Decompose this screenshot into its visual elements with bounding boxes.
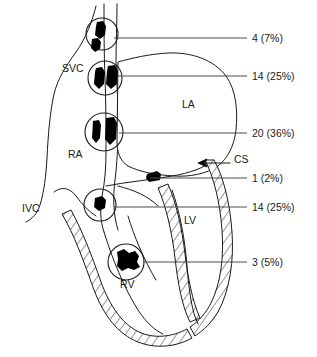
label-svc: SVC <box>62 62 84 74</box>
site-count-3: 20 (36%) <box>252 127 295 139</box>
label-ra: RA <box>68 148 83 160</box>
label-rv: RV <box>120 278 134 290</box>
site-count-1: 4 (7%) <box>252 32 283 44</box>
label-cs: CS <box>234 153 249 165</box>
label-la: LA <box>182 98 195 110</box>
cardiac-lesion-distribution-figure: SVC RA IVC LA LV RV CS 4 (7%) 14 (25%) 2… <box>0 0 317 357</box>
label-lv: LV <box>184 214 196 226</box>
label-ivc: IVC <box>22 202 40 214</box>
label-layer: SVC RA IVC LA LV RV CS 4 (7%) 14 (25%) 2… <box>0 0 317 357</box>
site-count-5: 14 (25%) <box>252 201 295 213</box>
site-count-6: 3 (5%) <box>252 256 283 268</box>
site-count-2: 14 (25%) <box>252 70 295 82</box>
site-count-4: 1 (2%) <box>252 172 283 184</box>
